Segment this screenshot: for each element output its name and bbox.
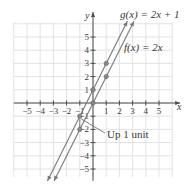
data-point [104,74,108,78]
data-point [78,127,82,131]
x-tick-label: −2 [62,106,72,116]
y-tick-label: 5 [85,32,90,42]
function-lines [47,21,133,181]
graph-figure: −5−4−3−2−112345−5−4−3−2−112345 g(x) = 2x… [0,0,194,194]
x-tick-label: 2 [117,106,122,116]
data-point [104,61,108,65]
data-point [91,88,95,92]
y-tick-label: −3 [79,138,89,148]
y-tick-label: 3 [85,58,90,68]
y-axis-arrow-icon [91,12,95,17]
y-axis-label: y [84,10,90,21]
x-tick-label: −3 [49,106,59,116]
x-tick-label: 5 [157,106,162,116]
y-tick-label: 1 [85,85,90,95]
x-axis-label: x [176,101,182,112]
x-tick-label: 4 [144,106,149,116]
f-label: f(x) = 2x [124,41,163,54]
y-tick-label: 2 [85,72,90,82]
x-tick-label: −5 [22,106,32,116]
data-point [91,101,95,105]
x-tick-label: −4 [35,106,45,116]
y-tick-label: 4 [85,45,90,55]
x-tick-label: 3 [130,106,135,116]
annotation-label: Up 1 unit [107,128,149,140]
y-tick-label: −5 [79,164,89,174]
g-label: g(x) = 2x + 1 [120,8,179,21]
y-tick-label: −4 [79,151,89,161]
x-tick-label: 1 [104,106,109,116]
data-point [78,114,82,118]
